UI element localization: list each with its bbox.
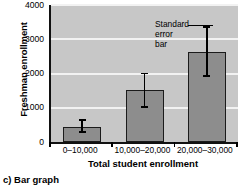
- y-axis-ticks: 01000200030004000: [14, 0, 44, 189]
- x-axis-title: Total student enrollment: [49, 158, 237, 169]
- standard-error-bar-annotation: Standard error bar: [155, 19, 189, 50]
- error-bar: [206, 27, 208, 76]
- error-bar-cap-top: [141, 73, 148, 75]
- x-tick-mark: [111, 142, 113, 147]
- x-tick-mark: [174, 142, 176, 147]
- y-tick-label: 3000: [16, 35, 44, 44]
- annotation-line-1: Standard: [155, 19, 189, 29]
- x-tick-mark: [236, 142, 238, 147]
- annotation-line-3: bar: [155, 39, 189, 49]
- error-bar-cap-bottom: [203, 75, 210, 77]
- bar-graph-figure: Freshman enrollment 01000200030004000 0–…: [0, 0, 244, 189]
- error-bar-cap-bottom: [141, 106, 148, 108]
- annotation-line-2: error: [155, 29, 189, 39]
- gridline: [51, 4, 238, 6]
- y-tick-label: 4000: [16, 1, 44, 10]
- x-tick-mark: [49, 142, 51, 147]
- x-tick-label: 20,000–30,000: [160, 145, 244, 155]
- error-bar: [144, 74, 146, 108]
- figure-caption: c) Bar graph: [3, 174, 59, 185]
- gridline: [51, 38, 238, 40]
- annotation-leader-line: [188, 25, 213, 26]
- error-bar-cap-bottom: [79, 131, 86, 133]
- y-tick-label: 1000: [16, 103, 44, 112]
- error-bar-cap-top: [79, 119, 86, 121]
- y-tick-label: 2000: [16, 69, 44, 78]
